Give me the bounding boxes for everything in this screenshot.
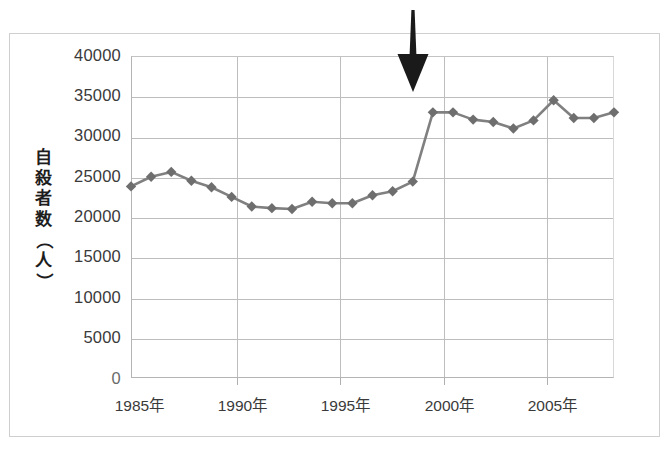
x-tick-mark-1995 xyxy=(340,378,341,385)
x-tick-mark-2005 xyxy=(547,378,548,385)
x-tick-label-1990: 1990年 xyxy=(193,393,293,415)
x-tick-label-1995: 1995年 xyxy=(296,393,396,415)
y-tick-label-40000: 40000 xyxy=(55,46,121,65)
y-axis-title-char-6: ） xyxy=(33,268,54,294)
down-arrow-icon xyxy=(395,8,431,94)
y-axis-title-char-1: 殺 xyxy=(30,169,56,190)
x-tick-label-2005: 2005年 xyxy=(503,393,603,415)
gridline-y-10000 xyxy=(132,299,613,300)
x-tick-label-2000: 2000年 xyxy=(400,393,500,415)
figure-root: 自 殺 者 数 （ 人 ） 40000 35000 30000 25000 20… xyxy=(0,0,670,458)
x-tick-mark-1990 xyxy=(237,378,238,385)
gridline-y-5000 xyxy=(132,339,613,340)
gridline-x-2000 xyxy=(444,57,445,377)
gridline-x-2005 xyxy=(547,57,548,377)
y-axis-title: 自 殺 者 数 （ 人 ） xyxy=(30,148,56,292)
gridline-y-15000 xyxy=(132,258,613,259)
gridline-y-30000 xyxy=(132,138,613,139)
y-tick-label-20000: 20000 xyxy=(55,207,121,226)
gridline-x-1990 xyxy=(237,57,238,377)
gridline-x-1995 xyxy=(340,57,341,377)
y-tick-label-10000: 10000 xyxy=(55,288,121,307)
y-axis-title-char-4: （ xyxy=(33,227,54,253)
y-tick-label-25000: 25000 xyxy=(55,167,121,186)
y-axis-title-char-0: 自 xyxy=(30,148,56,169)
x-tick-label-1985: 1985年 xyxy=(90,393,190,415)
y-tick-label-35000: 35000 xyxy=(55,86,121,105)
plot-area xyxy=(131,56,614,378)
y-tick-label-5000: 5000 xyxy=(55,328,121,347)
y-axis-title-char-2: 者 xyxy=(30,189,56,210)
gridline-y-20000 xyxy=(132,218,613,219)
y-tick-label-15000: 15000 xyxy=(55,247,121,266)
y-tick-label-30000: 30000 xyxy=(55,126,121,145)
x-tick-mark-2000 xyxy=(444,378,445,385)
gridline-y-35000 xyxy=(132,97,613,98)
gridline-y-25000 xyxy=(132,178,613,179)
y-tick-label-0: 0 xyxy=(55,369,121,388)
